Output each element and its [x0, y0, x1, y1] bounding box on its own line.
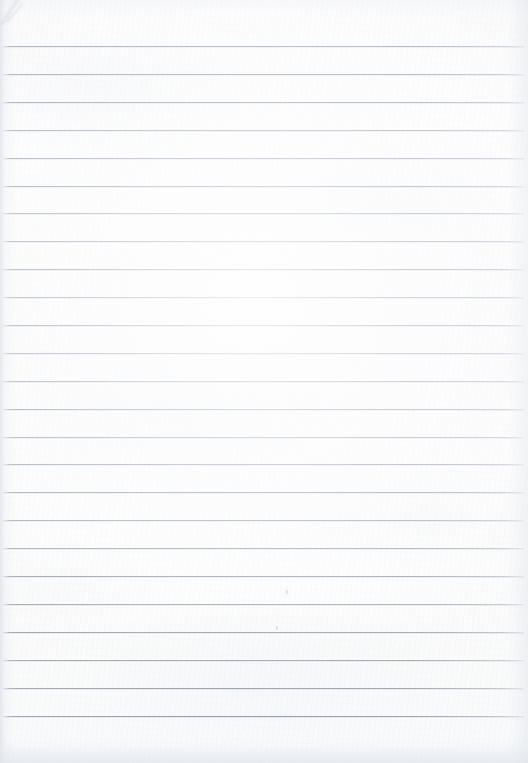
ruled-line: [3, 158, 524, 159]
ruled-line: [3, 186, 524, 187]
ruled-line: [3, 464, 524, 465]
ruled-line: [3, 409, 524, 410]
ruled-line: [3, 492, 524, 493]
ruled-line: [3, 325, 524, 326]
ruled-line: [3, 660, 524, 661]
ruled-line: [3, 353, 524, 354]
ruled-line: [3, 74, 524, 75]
ruled-line: [3, 381, 524, 382]
ruled-line: [3, 241, 524, 242]
scanned-page: [0, 0, 528, 763]
ruled-line: [3, 437, 524, 438]
ruled-line: [3, 520, 524, 521]
ruled-line: [3, 297, 524, 298]
ruled-line: [3, 46, 524, 47]
ruled-line: [3, 548, 524, 549]
ruled-line: [3, 130, 524, 131]
ruled-line: [3, 576, 524, 577]
ruled-line: [3, 102, 524, 103]
ruled-line-layer: [0, 0, 528, 763]
ruled-line: [3, 716, 524, 717]
ruled-line: [3, 688, 524, 689]
ruled-line: [3, 269, 524, 270]
ruled-line: [3, 632, 524, 633]
ruled-line: [3, 604, 524, 605]
ruled-line: [3, 213, 524, 214]
